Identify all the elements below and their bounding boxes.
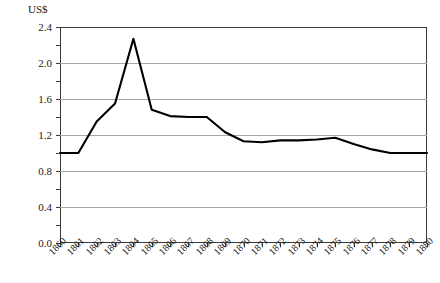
series-svg <box>60 27 427 243</box>
y-axis-unit-label: US$ <box>28 3 48 15</box>
y-axis-tick-label: 2.0 <box>18 58 52 69</box>
y-axis-tick-label: 1.2 <box>18 130 52 141</box>
y-axis-tick-label: 1.6 <box>18 94 52 105</box>
y-axis-tick-label: 0.8 <box>18 166 52 177</box>
plot-area <box>60 27 427 243</box>
y-axis-tick-label: 2.4 <box>18 22 52 33</box>
series-line-price <box>60 39 427 153</box>
x-axis-tick-label: 1860 <box>47 236 68 257</box>
line-chart: US$ 0.00.40.81.21.62.02.4 18601861186218… <box>0 0 440 283</box>
y-axis-tick-label: 0.4 <box>18 202 52 213</box>
